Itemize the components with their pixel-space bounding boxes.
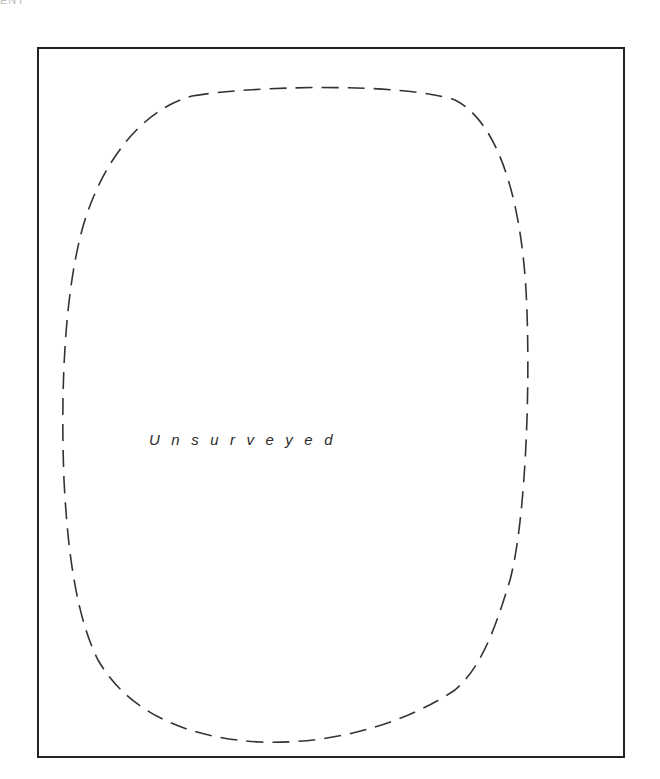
boundary-layer (0, 0, 660, 779)
unsurveyed-boundary-outline (63, 88, 528, 743)
unsurveyed-area-label: Unsurveyed (149, 431, 344, 448)
